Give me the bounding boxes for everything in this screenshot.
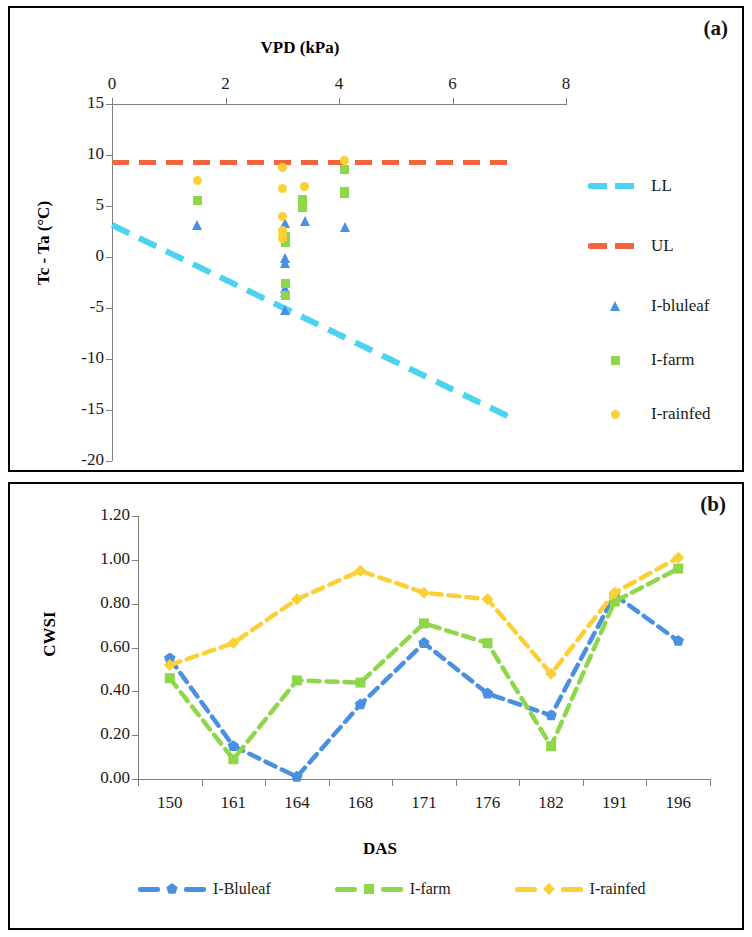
square-icon [611, 356, 620, 365]
panel-b-marker-i-farm [355, 678, 365, 688]
panel-a-x-tick-label: 6 [429, 74, 477, 94]
legend-marker-icon [542, 882, 556, 896]
panel-b-series-lines [10, 484, 746, 932]
panel-b-marker-i-rainfed [418, 587, 430, 599]
panel-a-y-tick-label: -5 [60, 297, 104, 317]
panel-b-legend-item-i-farm: I-farm [335, 880, 451, 898]
panel-a-y-tick [106, 104, 112, 105]
legend-dash-left [138, 887, 160, 892]
panel-a-y-tick [106, 206, 112, 207]
panel-a-legend-item-ll: LL [588, 176, 672, 196]
panel-a-point-i-farm [298, 195, 307, 204]
panel-a-legend-label: LL [651, 176, 672, 196]
circle-icon [611, 410, 620, 419]
panel-b-marker-i-farm [165, 673, 175, 683]
panel-a-y-tick-label: -15 [60, 399, 104, 419]
panel-a-legend-marker-box [588, 301, 642, 311]
panel-a-y-tick-label: 10 [60, 144, 104, 164]
panel-a-x-tick-label: 0 [88, 74, 136, 94]
panel-a-legend-label: UL [651, 236, 674, 256]
panel-a-legend-marker-box [588, 356, 642, 365]
panel-a-x-tick [453, 98, 454, 105]
panel-a-legend-ul-swatch [588, 243, 642, 249]
panel-b-marker-i-farm [546, 741, 556, 751]
panel-a-point-i-farm [340, 187, 349, 196]
panel-a-point-i-rainfed [278, 212, 287, 221]
panel-b-legend-label: I-Bluleaf [213, 880, 271, 898]
legend-marker-icon [165, 882, 179, 896]
panel-b: (b) DAS CWSI 0.000.200.400.600.801.001.2… [8, 482, 744, 930]
panel-b-marker-i-bluleaf [418, 637, 429, 648]
panel-a-legend-label: I-farm [651, 350, 694, 370]
panel-b-marker-i-farm [292, 675, 302, 685]
panel-a-legend-item-i-farm: I-farm [588, 350, 694, 370]
panel-b-legend: I-BluleafI-farmI-rainfed [138, 880, 710, 898]
panel-b-legend-label: I-rainfed [590, 880, 646, 898]
panel-a-x-tick [112, 98, 113, 105]
panel-a-point-i-farm [281, 291, 290, 300]
panel-a-y-tick [106, 257, 112, 258]
panel-b-legend-item-i-rainfed: I-rainfed [515, 880, 646, 898]
legend-dash-left [515, 887, 537, 892]
panel-a-x-tick-label: 4 [315, 74, 363, 94]
panel-a-y-tick [106, 308, 112, 309]
panel-a-legend-label: I-bluleaf [651, 296, 710, 316]
panel-a-ul-reference-line [112, 160, 509, 165]
panel-a-y-axis-line [112, 104, 113, 461]
panel-a-point-i-bluleaf [340, 222, 350, 232]
panel-a-point-i-bluleaf [280, 258, 290, 268]
panel-a-point-i-bluleaf [280, 305, 290, 315]
panel-a-x-tick-label: 2 [202, 74, 250, 94]
panel-a-point-i-farm [193, 196, 202, 205]
legend-dash-right [561, 887, 583, 892]
panel-a-y-tick [106, 410, 112, 411]
triangle-icon [610, 301, 620, 311]
panel-b-plot-area: 0.000.200.400.600.801.001.20150161164168… [10, 484, 746, 932]
panel-a-y-tick-label: 15 [60, 93, 104, 113]
panel-a-point-i-rainfed [278, 163, 287, 172]
panel-a-y-tick-label: 5 [60, 195, 104, 215]
panel-a-y-tick-label: -10 [60, 348, 104, 368]
panel-a-legend-item-i-rainfed: I-rainfed [588, 404, 710, 424]
panel-a-point-i-bluleaf [192, 220, 202, 230]
panel-a-x-tick [226, 98, 227, 105]
panel-a-legend-ll-swatch [588, 183, 642, 189]
panel-a: (a) VPD (kPa) Tc - Ta (°C) 02468151050-5… [8, 6, 744, 472]
panel-a-x-tick [566, 98, 567, 105]
legend-dash-right [184, 887, 206, 892]
panel-b-marker-i-farm [673, 564, 683, 574]
panel-a-legend-item-ul: UL [588, 236, 674, 256]
panel-a-point-i-farm [281, 279, 290, 288]
panel-b-legend-label: I-farm [410, 880, 451, 898]
panel-a-legend-item-i-bluleaf: I-bluleaf [588, 296, 710, 316]
panel-a-y-tick [106, 461, 112, 462]
panel-a-legend-label: I-rainfed [651, 404, 710, 424]
panel-a-y-tick-label: -20 [60, 450, 104, 470]
panel-b-marker-i-bluleaf [545, 709, 556, 720]
panel-b-marker-i-farm [483, 638, 493, 648]
panel-a-legend-marker-box [588, 410, 642, 419]
legend-marker-icon [362, 882, 376, 896]
panel-b-marker-i-farm [419, 618, 429, 628]
panel-a-point-i-bluleaf [300, 216, 310, 226]
panel-a-plot-area: 02468151050-5-10-15-20LLULI-bluleafI-far… [10, 8, 746, 474]
panel-b-marker-i-farm [228, 754, 238, 764]
panel-a-point-i-rainfed [278, 234, 287, 243]
panel-a-y-tick-label: 0 [60, 246, 104, 266]
panel-b-legend-item-i-bluleaf: I-Bluleaf [138, 880, 271, 898]
panel-a-point-i-farm [340, 165, 349, 174]
legend-dash-right [381, 887, 403, 892]
panel-a-point-i-rainfed [340, 156, 349, 165]
legend-dash-left [335, 887, 357, 892]
figure-container: (a) VPD (kPa) Tc - Ta (°C) 02468151050-5… [0, 0, 752, 937]
panel-a-x-tick-label: 8 [542, 74, 590, 94]
panel-a-y-tick [106, 359, 112, 360]
panel-a-ll-reference-line [111, 223, 511, 420]
panel-a-y-tick [106, 155, 112, 156]
panel-a-point-i-rainfed [300, 182, 309, 191]
panel-a-x-tick [339, 98, 340, 105]
panel-a-point-i-rainfed [193, 176, 202, 185]
panel-a-point-i-rainfed [278, 184, 287, 193]
